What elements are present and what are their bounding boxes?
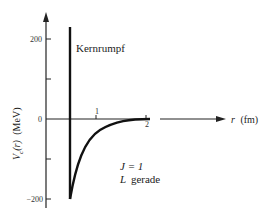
x-axis-arrow-icon: [216, 116, 226, 122]
j-text: J = 1: [120, 160, 143, 172]
l-label: L gerade: [119, 173, 160, 185]
kernrumpf-label: Kernrumpf: [76, 42, 125, 54]
y-axis-arg: (r): [11, 140, 23, 151]
y-axis-label: Vc(r) (MeV): [11, 108, 25, 161]
j-label: J = 1: [120, 160, 143, 172]
x-axis-unit: (fm): [240, 114, 258, 126]
y-tick-label-0: 0: [38, 115, 42, 124]
y-axis-unit: (MeV): [11, 108, 23, 135]
potential-curve: [70, 119, 150, 199]
y-tick-label-200: 200: [30, 35, 42, 44]
x-axis-label: r (fm): [231, 114, 258, 126]
y-axis-arrow-icon: [43, 12, 49, 22]
x-tick-label-2: 2: [145, 120, 149, 129]
l-word: gerade: [131, 173, 160, 185]
potential-chart: 200 0 −200 1 2 r (fm) Vc(r) (MeV) Kernru…: [0, 0, 268, 215]
y-tick-label-minus200: −200: [26, 195, 43, 204]
x-tick-label-1: 1: [95, 107, 99, 116]
l-var: L: [119, 173, 126, 185]
x-axis-var: r: [231, 114, 235, 125]
